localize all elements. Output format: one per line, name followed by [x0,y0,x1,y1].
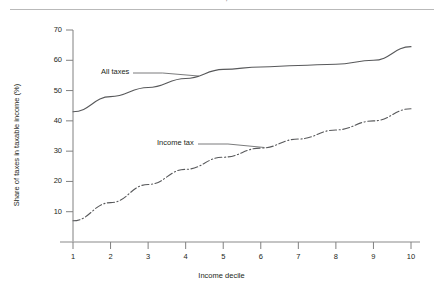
y-tick-label: 70 [40,25,62,34]
figure-header: Table 3.4Share of taxes in taxable incom… [0,0,443,12]
series-line-income-tax [73,109,411,221]
x-tick-label: 8 [324,252,348,261]
y-tick-label: 40 [40,116,62,125]
x-tick-label: 6 [249,252,273,261]
x-tick-label: 9 [361,252,385,261]
chart-page: Table 3.4Share of taxes in taxable incom… [0,0,443,303]
x-axis-ticks [73,242,411,249]
y-tick-label: 30 [40,146,62,155]
x-tick-label: 7 [286,252,310,261]
figure-title: Table 3.4Share of taxes in taxable incom… [10,0,247,2]
y-axis-ticks [66,30,73,212]
x-tick-label: 10 [399,252,423,261]
y-tick-label: 20 [40,176,62,185]
x-tick-label: 4 [174,252,198,261]
annotation-leaders [133,73,265,148]
figure-title-text: Share of taxes in taxable income, 2003 [106,0,247,2]
axes [60,30,420,242]
figure-number: Table 3.4 [10,0,106,2]
y-tick-label: 50 [40,86,62,95]
x-tick-label: 5 [211,252,235,261]
series-annotation-all-taxes: All taxes [101,67,129,76]
y-tick-label: 10 [40,207,62,216]
x-tick-label: 3 [136,252,160,261]
line-chart: Share of taxes in taxable income (%) Inc… [0,12,443,303]
x-tick-label: 1 [61,252,85,261]
x-tick-label: 2 [99,252,123,261]
series-annotation-income-tax: Income tax [157,138,194,147]
header-divider [10,9,434,10]
annotation-leader-line [133,73,199,76]
y-tick-label: 60 [40,55,62,64]
annotation-leader-line [198,144,265,148]
series-line-all-taxes [73,47,411,112]
